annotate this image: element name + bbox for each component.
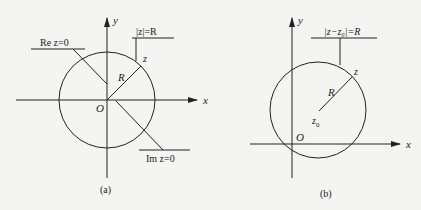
origin-label: O (96, 102, 104, 114)
panel-a: x y O R z |z|=R Re z=0 Im z=0 (a) (16, 14, 208, 196)
circle-annotation: |z−z₀|=R (324, 26, 360, 37)
origin-label: O (296, 131, 304, 143)
complex-plane-figure: x y O R z |z|=R Re z=0 Im z=0 (a) x y O … (0, 0, 421, 210)
center-z0-label: z0 (311, 115, 320, 129)
x-axis-label: x (202, 94, 208, 106)
radius-line (319, 77, 352, 111)
point-z-label: z (353, 66, 358, 77)
radius-label: R (327, 86, 335, 98)
panel-b: x y O R z z0 |z−z₀|=R (b) (250, 14, 411, 200)
re-axis-annotation: Re z=0 (40, 37, 69, 48)
caption-b: (b) (320, 188, 332, 200)
caption-a: (a) (100, 184, 111, 196)
radius-label: R (117, 71, 125, 83)
im-axis-annotation: Im z=0 (146, 153, 175, 164)
circle-annotation: |z|=R (136, 26, 157, 37)
x-axis-label: x (405, 138, 411, 150)
point-z-label: z (142, 53, 147, 64)
leader-im (116, 101, 163, 150)
leader-re (73, 49, 107, 84)
y-axis-label: y (112, 14, 118, 26)
y-axis-label: y (297, 14, 303, 26)
